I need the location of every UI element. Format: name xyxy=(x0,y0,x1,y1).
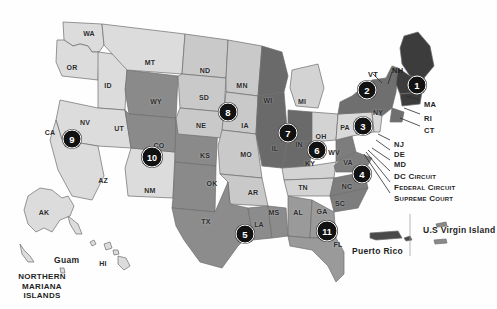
seventh-circuit-badge[interactable]: 7 xyxy=(279,124,298,143)
nmi-line-3: ISLANDS xyxy=(23,291,60,300)
callout-nh: NH xyxy=(392,66,403,75)
fifth-circuit-badge[interactable]: 5 xyxy=(236,225,255,244)
callout-ri: RI xyxy=(424,114,432,123)
territory-northern-mariana-islands-label: NORTHERN MARIANA ISLANDS xyxy=(6,272,78,301)
puerto-rico-shape xyxy=(370,231,412,241)
nmi-line-2: MARIANA xyxy=(22,282,62,291)
callout-supreme-court: Supreme Court xyxy=(394,194,453,203)
third-circuit-badge[interactable]: 3 xyxy=(354,117,373,136)
tenth-circuit-badge[interactable]: 10 xyxy=(142,147,163,168)
callout-vt: VT xyxy=(368,70,378,79)
nmi-line-1: NORTHERN xyxy=(18,272,66,281)
alaska-shape xyxy=(20,188,82,262)
callout-ma: MA xyxy=(424,100,436,109)
eighth-circuit-badge[interactable]: 8 xyxy=(219,103,238,122)
ninth-circuit-badge[interactable]: 9 xyxy=(63,130,82,149)
territory-us-virgin-island-label: U.S Virgin Island xyxy=(423,225,496,235)
territory-puerto-rico-label: Puerto Rico xyxy=(352,246,403,256)
us-judicial-circuits-map: WAORIDMTNDMNSDWYNVCAUTCONEIAWIMIILINOHPA… xyxy=(0,0,497,309)
first-circuit-badge[interactable]: 1 xyxy=(408,76,427,95)
callout-nj: NJ xyxy=(394,140,404,149)
sixth-circuit-badge[interactable]: 6 xyxy=(308,141,327,160)
second-circuit-badge[interactable]: 2 xyxy=(358,81,377,100)
callout-federal-circuit: Federal Circuit xyxy=(394,183,455,192)
callout-md: MD xyxy=(394,160,406,169)
hawaii-shape xyxy=(90,240,130,270)
eleventh-circuit-badge[interactable]: 11 xyxy=(317,221,338,242)
callout-ct: CT xyxy=(424,126,435,135)
territory-guam-label: Guam xyxy=(54,255,79,265)
fourth-circuit-badge[interactable]: 4 xyxy=(353,165,372,184)
callout-de: DE xyxy=(394,150,405,159)
callout-dc-circuit: DC Circuit xyxy=(394,172,436,181)
